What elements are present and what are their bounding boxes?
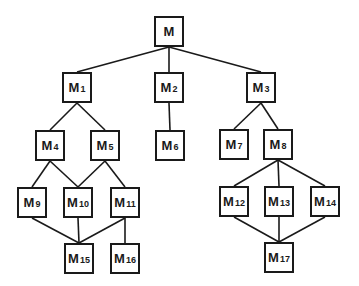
node-subscript: 7 bbox=[237, 141, 242, 151]
node-subscript: 5 bbox=[108, 142, 113, 152]
node-label: M bbox=[69, 80, 80, 95]
node-subscript: 2 bbox=[172, 84, 177, 94]
edge-M4-M9 bbox=[32, 161, 50, 187]
edge-M-M1 bbox=[77, 47, 169, 72]
edge-M11-M15 bbox=[79, 218, 125, 243]
node-m7: M7 bbox=[219, 129, 249, 160]
node-m11: M11 bbox=[110, 187, 140, 218]
node-m16: M16 bbox=[110, 243, 140, 274]
node-subscript: 10 bbox=[79, 199, 89, 209]
edge-M14-M17 bbox=[279, 217, 325, 242]
node-label: M bbox=[68, 251, 79, 266]
edge-M3-M7 bbox=[234, 103, 261, 129]
node-m14: M14 bbox=[310, 186, 340, 217]
edge-M1-M5 bbox=[77, 103, 105, 130]
node-m: M bbox=[154, 16, 184, 47]
node-label: M bbox=[42, 138, 53, 153]
node-subscript: 3 bbox=[264, 84, 269, 94]
edge-M5-M11 bbox=[105, 161, 125, 187]
node-subscript: 9 bbox=[35, 199, 40, 209]
node-subscript: 4 bbox=[53, 142, 58, 152]
node-subscript: 1 bbox=[80, 84, 85, 94]
node-subscript: 16 bbox=[126, 255, 136, 265]
node-label: M bbox=[24, 195, 35, 210]
node-label: M bbox=[226, 137, 237, 152]
edge-M9-M15 bbox=[32, 218, 79, 243]
node-subscript: 8 bbox=[281, 141, 286, 151]
edge-M1-M4 bbox=[50, 103, 77, 130]
node-subscript: 11 bbox=[126, 199, 136, 209]
node-m8: M8 bbox=[263, 129, 293, 160]
edge-M10-M15 bbox=[78, 218, 79, 243]
node-subscript: 12 bbox=[235, 198, 245, 208]
node-label: M bbox=[253, 80, 264, 95]
node-label: M bbox=[164, 24, 175, 39]
edge-M5-M10 bbox=[78, 161, 105, 187]
edge-M8-M12 bbox=[234, 160, 278, 186]
node-m4: M4 bbox=[35, 130, 65, 161]
node-m10: M10 bbox=[63, 187, 93, 218]
node-m9: M9 bbox=[17, 187, 47, 218]
node-subscript: 17 bbox=[280, 254, 290, 264]
edge-M-M3 bbox=[169, 47, 261, 72]
node-label: M bbox=[268, 194, 279, 209]
node-label: M bbox=[67, 195, 78, 210]
node-label: M bbox=[97, 138, 108, 153]
edge-M8-M13 bbox=[278, 160, 279, 186]
node-m6: M6 bbox=[155, 130, 185, 161]
node-m13: M13 bbox=[264, 186, 294, 217]
node-subscript: 15 bbox=[80, 255, 90, 265]
node-label: M bbox=[268, 250, 279, 265]
node-subscript: 13 bbox=[280, 198, 290, 208]
node-m17: M17 bbox=[264, 242, 294, 273]
node-m12: M12 bbox=[219, 186, 249, 217]
edge-M12-M17 bbox=[234, 217, 279, 242]
node-label: M bbox=[114, 195, 125, 210]
edge-M3-M8 bbox=[261, 103, 278, 129]
edge-M8-M14 bbox=[278, 160, 325, 186]
node-m15: M15 bbox=[64, 243, 94, 274]
node-label: M bbox=[114, 251, 125, 266]
node-label: M bbox=[162, 138, 173, 153]
node-subscript: 14 bbox=[326, 198, 336, 208]
node-label: M bbox=[314, 194, 325, 209]
node-m1: M1 bbox=[62, 72, 92, 103]
node-m2: M2 bbox=[154, 72, 184, 103]
edge-M4-M10 bbox=[50, 161, 78, 187]
node-m5: M5 bbox=[90, 130, 120, 161]
node-label: M bbox=[223, 194, 234, 209]
node-label: M bbox=[270, 137, 281, 152]
node-subscript: 6 bbox=[173, 142, 178, 152]
node-label: M bbox=[161, 80, 172, 95]
edge-M2-M6 bbox=[169, 103, 170, 130]
node-m3: M3 bbox=[246, 72, 276, 103]
